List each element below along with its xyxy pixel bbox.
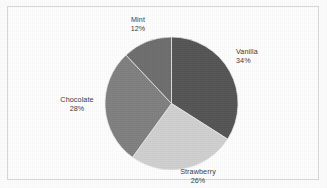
pie-svg [104, 36, 239, 171]
plot-frame: Vanilla 34% Strawberry 26% Chocolate 28%… [7, 6, 319, 180]
slice-label-strawberry: Strawberry 26% [160, 167, 236, 185]
slice-label-vanilla-value: 34% [236, 56, 258, 65]
slice-label-chocolate-name: Chocolate [60, 95, 93, 104]
slice-label-chocolate-value: 28% [44, 104, 110, 113]
slice-label-mint-name: Mint [131, 15, 145, 24]
slice-label-strawberry-value: 26% [160, 176, 236, 185]
slice-label-vanilla-name: Vanilla [236, 47, 258, 56]
pie-chart-figure: Vanilla 34% Strawberry 26% Chocolate 28%… [0, 0, 327, 188]
slice-label-mint: Mint 12% [111, 15, 165, 33]
slice-label-chocolate: Chocolate 28% [44, 95, 110, 113]
slice-label-vanilla: Vanilla 34% [236, 47, 258, 65]
slice-label-mint-value: 12% [111, 24, 165, 33]
slice-label-strawberry-name: Strawberry [180, 167, 216, 176]
pie-chart [104, 36, 239, 171]
